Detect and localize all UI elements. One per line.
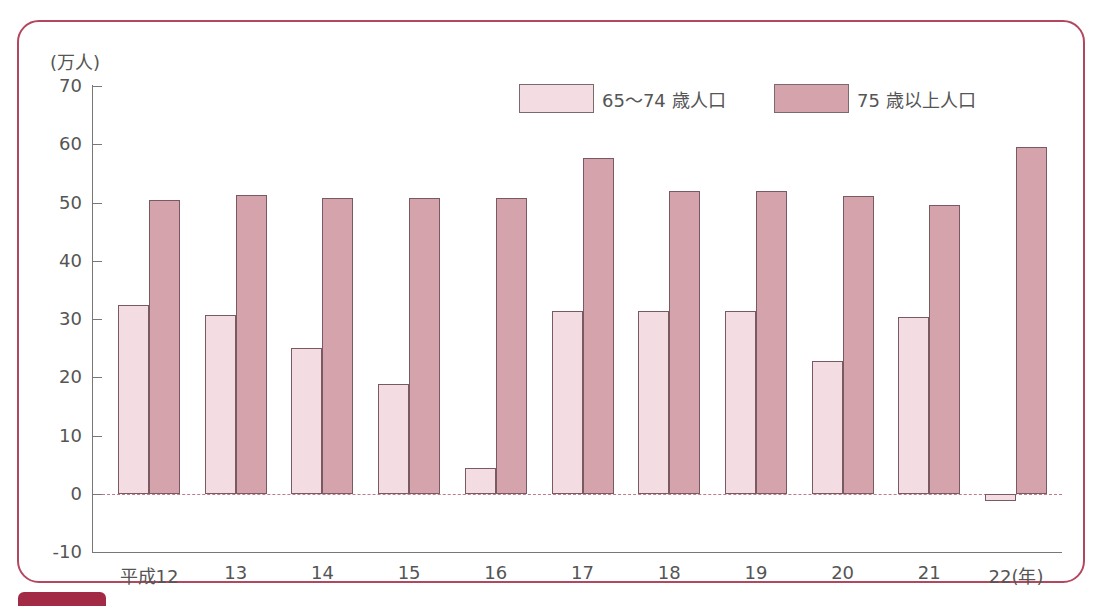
bar-75-plus bbox=[1016, 147, 1047, 494]
x-tick-label: 22(年) bbox=[971, 562, 1061, 588]
bar-75-plus bbox=[322, 198, 353, 494]
y-tick-mark bbox=[92, 552, 102, 553]
bar-75-plus bbox=[236, 195, 267, 494]
y-tick-mark bbox=[92, 377, 102, 378]
bar-65-74 bbox=[552, 311, 583, 494]
y-tick-label: -10 bbox=[42, 541, 82, 562]
x-tick-label: 19 bbox=[711, 562, 801, 583]
bar-65-74 bbox=[465, 468, 496, 494]
x-tick-label: 20 bbox=[798, 562, 888, 583]
x-tick-label: 17 bbox=[538, 562, 628, 583]
y-tick-mark bbox=[92, 494, 102, 495]
y-tick-label: 20 bbox=[42, 366, 82, 387]
x-tick-label: 21 bbox=[884, 562, 974, 583]
bar-75-plus bbox=[583, 158, 614, 494]
zero-baseline bbox=[92, 494, 1062, 495]
legend-swatch-65-74 bbox=[519, 84, 594, 113]
bar-75-plus bbox=[149, 200, 180, 494]
legend-item-65-74: 65〜74 歳人口 bbox=[519, 84, 726, 113]
y-tick-label: 40 bbox=[42, 250, 82, 271]
legend-swatch-75-plus bbox=[774, 84, 849, 113]
y-tick-mark bbox=[92, 436, 102, 437]
bar-75-plus bbox=[756, 191, 787, 494]
y-tick-label: 50 bbox=[42, 192, 82, 213]
bar-65-74 bbox=[205, 315, 236, 494]
bar-65-74 bbox=[898, 317, 929, 494]
y-tick-mark bbox=[92, 144, 102, 145]
bar-65-74 bbox=[378, 384, 409, 494]
legend-label-65-74: 65〜74 歳人口 bbox=[602, 86, 726, 112]
x-tick-label: 16 bbox=[451, 562, 541, 583]
bar-75-plus bbox=[843, 196, 874, 494]
y-tick-label: 10 bbox=[42, 425, 82, 446]
legend-label-75-plus: 75 歳以上人口 bbox=[857, 86, 976, 112]
bar-75-plus bbox=[409, 198, 440, 494]
y-unit-label: (万人) bbox=[50, 48, 100, 74]
bar-75-plus bbox=[929, 205, 960, 494]
y-tick-label: 0 bbox=[42, 483, 82, 504]
y-tick-mark bbox=[92, 319, 102, 320]
bar-65-74 bbox=[118, 305, 149, 494]
bar-65-74 bbox=[725, 311, 756, 494]
bar-65-74 bbox=[812, 361, 843, 494]
y-tick-mark bbox=[92, 261, 102, 262]
caption-tab bbox=[18, 592, 106, 606]
x-tick-label: 15 bbox=[364, 562, 454, 583]
y-tick-label: 70 bbox=[42, 75, 82, 96]
x-tick-label: 14 bbox=[277, 562, 367, 583]
bar-65-74 bbox=[985, 494, 1016, 501]
y-tick-label: 60 bbox=[42, 133, 82, 154]
bar-75-plus bbox=[669, 191, 700, 494]
y-tick-label: 30 bbox=[42, 308, 82, 329]
x-tick-label: 平成12 bbox=[104, 562, 194, 588]
legend-item-75-plus: 75 歳以上人口 bbox=[774, 84, 976, 113]
x-tick-label: 13 bbox=[191, 562, 281, 583]
y-tick-mark bbox=[92, 203, 102, 204]
bar-75-plus bbox=[496, 198, 527, 494]
bar-65-74 bbox=[291, 348, 322, 494]
x-tick-label: 18 bbox=[624, 562, 714, 583]
x-axis bbox=[92, 552, 1062, 553]
bar-65-74 bbox=[638, 311, 669, 494]
y-tick-mark bbox=[92, 86, 102, 87]
